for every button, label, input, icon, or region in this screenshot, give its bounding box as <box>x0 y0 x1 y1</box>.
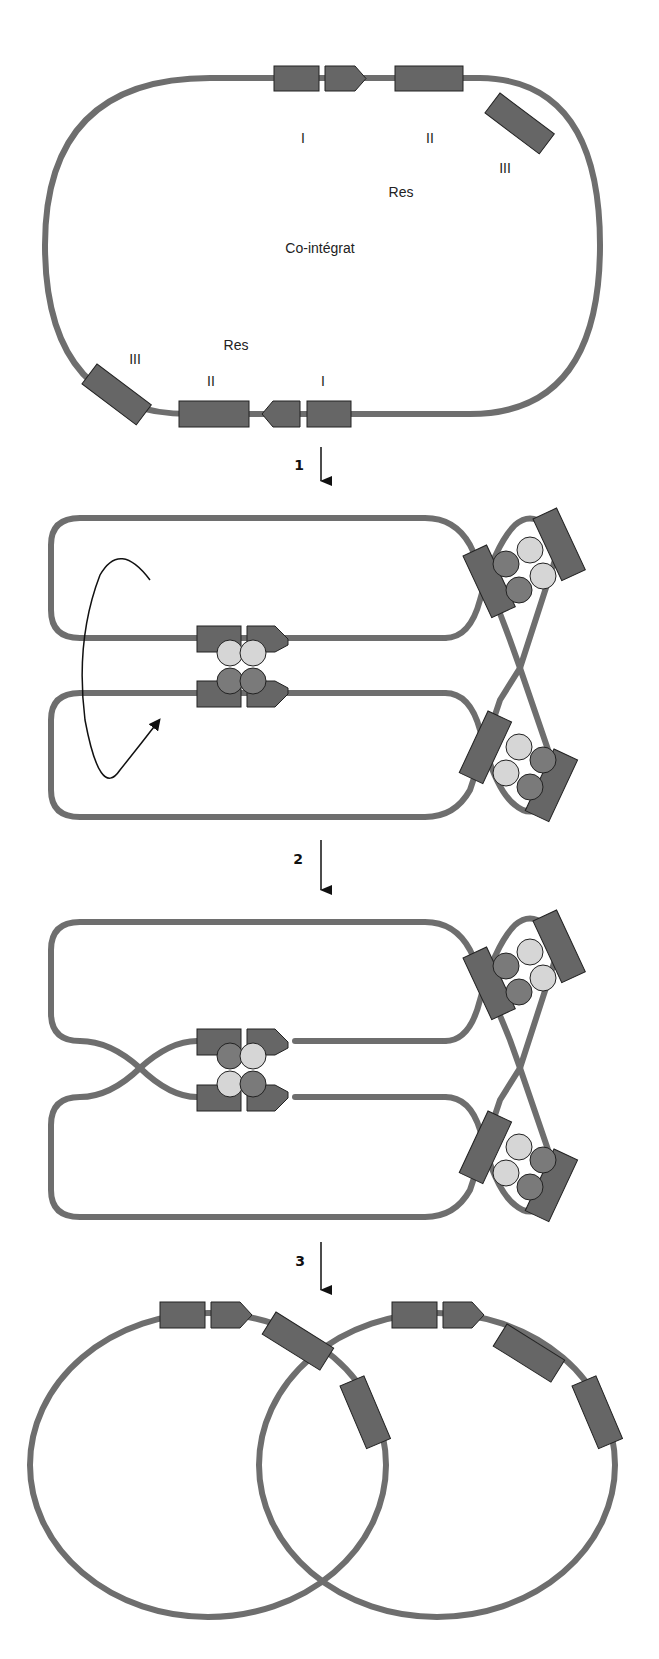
step-2-label: 2 <box>293 851 303 867</box>
site-II-box-bottom <box>179 401 249 427</box>
label-site-II-bottom: II <box>207 373 215 389</box>
label-site-III-top: III <box>499 160 511 176</box>
label-site-III-bottom: III <box>129 351 141 367</box>
label-res-bottom: Res <box>224 337 249 353</box>
product-circle-left <box>30 1313 386 1617</box>
synapse-stage-2 <box>51 508 585 822</box>
site-III-box <box>485 93 554 154</box>
rotation-arrow-icon <box>82 559 157 779</box>
resolution-diagram: I II III Res Co-intégrat Res III II I 1 <box>0 0 659 1659</box>
site-I-box-bottom <box>307 401 351 427</box>
label-site-I-top: I <box>301 130 305 146</box>
catenane-products <box>30 1302 623 1617</box>
site-I-box <box>274 66 319 91</box>
label-cointegrate: Co-intégrat <box>285 240 354 256</box>
step-1-label: 1 <box>294 457 304 473</box>
site-III-box-bottom <box>82 364 151 425</box>
site-I-arrow <box>325 66 366 91</box>
label-site-II-top: II <box>426 130 434 146</box>
exchange-stage-3 <box>51 910 585 1222</box>
step-3-label: 3 <box>295 1253 305 1269</box>
site-II-box <box>395 66 463 91</box>
site-I-arrow-bottom <box>262 401 300 427</box>
label-res-top: Res <box>389 184 414 200</box>
label-site-I-bottom: I <box>321 373 325 389</box>
